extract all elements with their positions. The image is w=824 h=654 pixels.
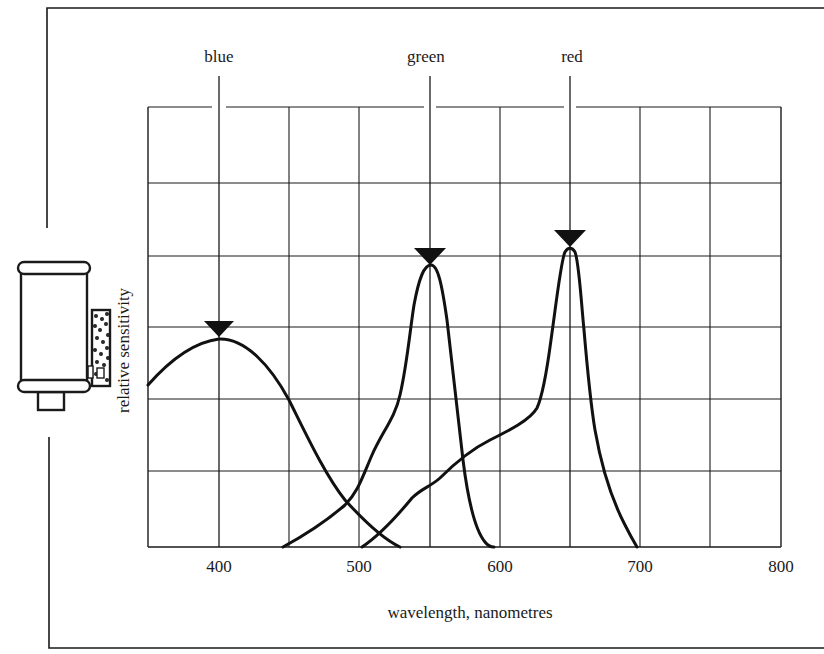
x-tick-800: 800 bbox=[768, 557, 794, 576]
red-peak-marker-icon bbox=[554, 230, 586, 247]
x-tick-400: 400 bbox=[206, 557, 232, 576]
blue-sensitivity-curve bbox=[148, 339, 400, 547]
color-sensitivity-figure: relative sensitivity blue green red bbox=[0, 0, 824, 654]
x-tick-700: 700 bbox=[627, 557, 653, 576]
x-axis-label: wavelength, nanometres bbox=[387, 603, 552, 622]
y-axis-label: relative sensitivity bbox=[114, 287, 133, 413]
x-tick-500: 500 bbox=[346, 557, 372, 576]
x-axis-ticks: 400 500 600 700 800 bbox=[206, 557, 794, 576]
camera-icon bbox=[18, 262, 110, 410]
x-tick-600: 600 bbox=[487, 557, 513, 576]
green-sensitivity-curve bbox=[283, 265, 494, 547]
marker-label-blue: blue bbox=[204, 47, 233, 66]
marker-lines bbox=[219, 76, 570, 547]
blue-peak-marker-icon bbox=[204, 321, 234, 337]
marker-label-red: red bbox=[561, 47, 583, 66]
marker-label-green: green bbox=[407, 47, 445, 66]
